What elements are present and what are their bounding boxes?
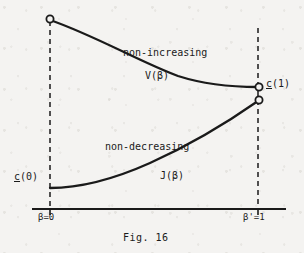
x-axis-label-beta-0: β=0 xyxy=(38,213,54,222)
annotation-non-increasing: non-increasing xyxy=(123,48,207,58)
endpoint-arg-right: (1) xyxy=(272,78,290,89)
figure-16: non-increasing V(β) non-decreasing J(β) … xyxy=(0,0,304,253)
marker-v-beta-end xyxy=(255,83,262,90)
marker-j-beta-end xyxy=(255,96,262,103)
curve-label-v-beta: V(β) xyxy=(145,71,169,81)
figure-caption: Fig. 16 xyxy=(123,233,169,243)
endpoint-label-c-0: c(0) xyxy=(14,172,38,182)
endpoint-label-c-1: c(1) xyxy=(266,79,290,89)
marker-v-beta-start xyxy=(46,15,53,22)
x-axis-label-beta-prime-1: β'=1 xyxy=(243,213,265,222)
endpoint-arg-left: (0) xyxy=(20,171,38,182)
curve-label-j-beta: J(β) xyxy=(160,171,184,181)
annotation-non-decreasing: non-decreasing xyxy=(105,142,189,152)
